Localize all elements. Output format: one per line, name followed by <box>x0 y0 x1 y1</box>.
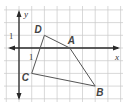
coordinate-plane: x y 1 1 ABCD <box>0 0 125 106</box>
y-tick-label: 1 <box>9 31 13 41</box>
vertex-label-b: B <box>96 87 103 98</box>
y-axis-arrow-up-icon <box>17 10 22 17</box>
vertex-label-a: A <box>67 35 75 46</box>
x-tick-label: 1 <box>29 52 33 62</box>
grid <box>4 6 123 102</box>
x-axis-arrow-left-icon <box>8 46 15 51</box>
vertex-label-d: D <box>34 24 41 35</box>
x-axis-arrow-right-icon <box>113 46 120 51</box>
x-axis-label: x <box>114 52 119 62</box>
vertex-label-c: C <box>22 72 30 83</box>
y-axis-label: y <box>23 9 28 19</box>
